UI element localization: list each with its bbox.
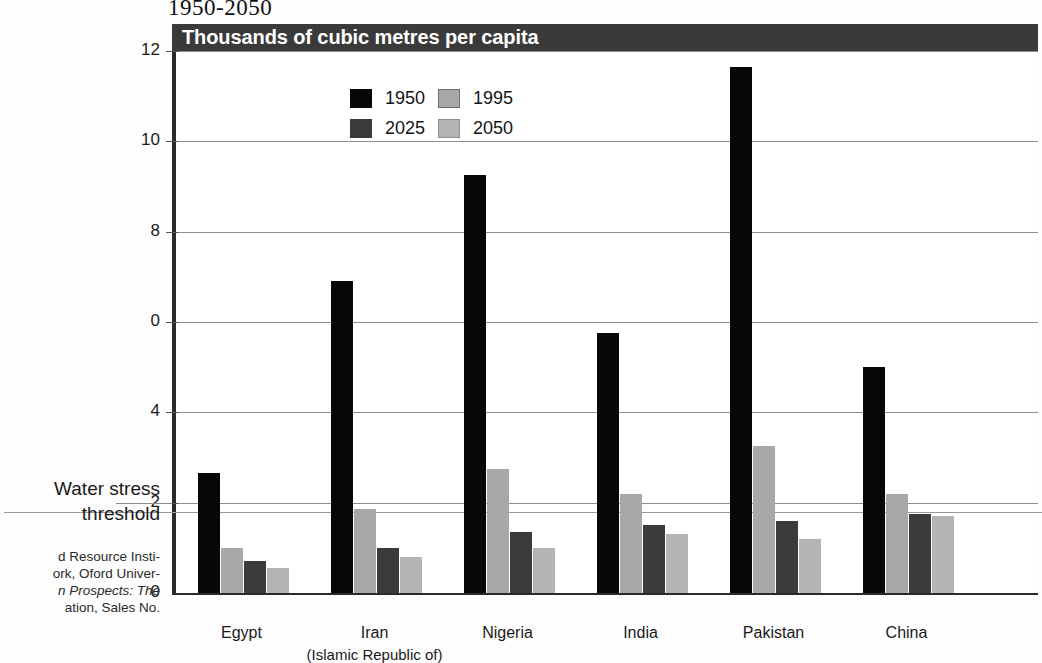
bar [267,568,289,593]
source-note-line-3: n Prospects: The [0,582,160,599]
bar [377,548,399,593]
threshold-annotation-line-2: threshold [0,501,160,526]
page-title: 1950-2050 [168,0,272,21]
bar [909,514,931,593]
y-axis-tick [166,51,178,52]
bar [597,333,619,593]
bar-group [198,473,290,593]
gridline [176,51,1038,52]
bar-group [331,281,423,593]
gridline [176,322,1038,323]
bar [863,367,885,593]
y-axis-tick-label: 0 [120,311,160,331]
bar [643,525,665,593]
y-axis-tick-label: 4 [120,401,160,421]
legend-label-1950: 1950 [385,88,425,109]
gridline [176,141,1038,142]
source-note-line-4: ation, Sales No. [0,599,160,616]
bar-group [464,175,556,593]
threshold-annotation-line-1: Water stress [0,476,160,501]
y-axis-tick [166,232,178,233]
legend-swatch-1995 [438,89,460,108]
bar [221,548,243,593]
bar [886,494,908,593]
y-axis-tick-label: 8 [120,221,160,241]
y-axis-tick-label: 12 [120,40,160,60]
bar [666,534,688,593]
bar-group [730,67,822,593]
bar [244,561,266,593]
x-axis-tick-label: China [827,624,987,642]
legend-label-2025: 2025 [385,118,425,139]
bar-group [863,367,955,593]
y-axis-tick [166,141,178,142]
y-axis-tick [166,322,178,323]
source-note: d Resource Insti- ork, Oford Univer- n P… [0,548,160,616]
legend-label-1995: 1995 [473,88,513,109]
gridline [176,232,1038,233]
source-note-line-2: ork, Oford Univer- [0,565,160,582]
plot-area [176,51,1038,593]
y-axis-tick-label: 10 [120,130,160,150]
bar [198,473,220,593]
bar-group [597,333,689,593]
bar [753,446,775,593]
bar [400,557,422,593]
bar [487,469,509,593]
legend-label-2050: 2050 [473,118,513,139]
water-stress-threshold-annotation: Water stress threshold [0,476,160,526]
bar [730,67,752,593]
bar [932,516,954,593]
bar [510,532,532,593]
bar [776,521,798,593]
chart-plot-frame: Thousands of cubic metres per capita 024… [172,24,1038,594]
bar [533,548,555,593]
legend-swatch-2050 [438,119,460,138]
source-note-line-1: d Resource Insti- [0,548,160,565]
bar [464,175,486,593]
chart-banner-label: Thousands of cubic metres per capita [182,26,539,49]
threshold-leader-line [116,503,172,504]
legend-swatch-2025 [350,119,372,138]
bar [799,539,821,593]
bar [620,494,642,593]
y-axis-tick [166,412,178,413]
x-axis-tick-sublabel: (Islamic Republic of) [275,646,475,663]
bar [354,509,376,593]
chart-legend: 1950199520252050 [350,88,513,139]
bar [331,281,353,593]
legend-swatch-1950 [350,89,372,108]
